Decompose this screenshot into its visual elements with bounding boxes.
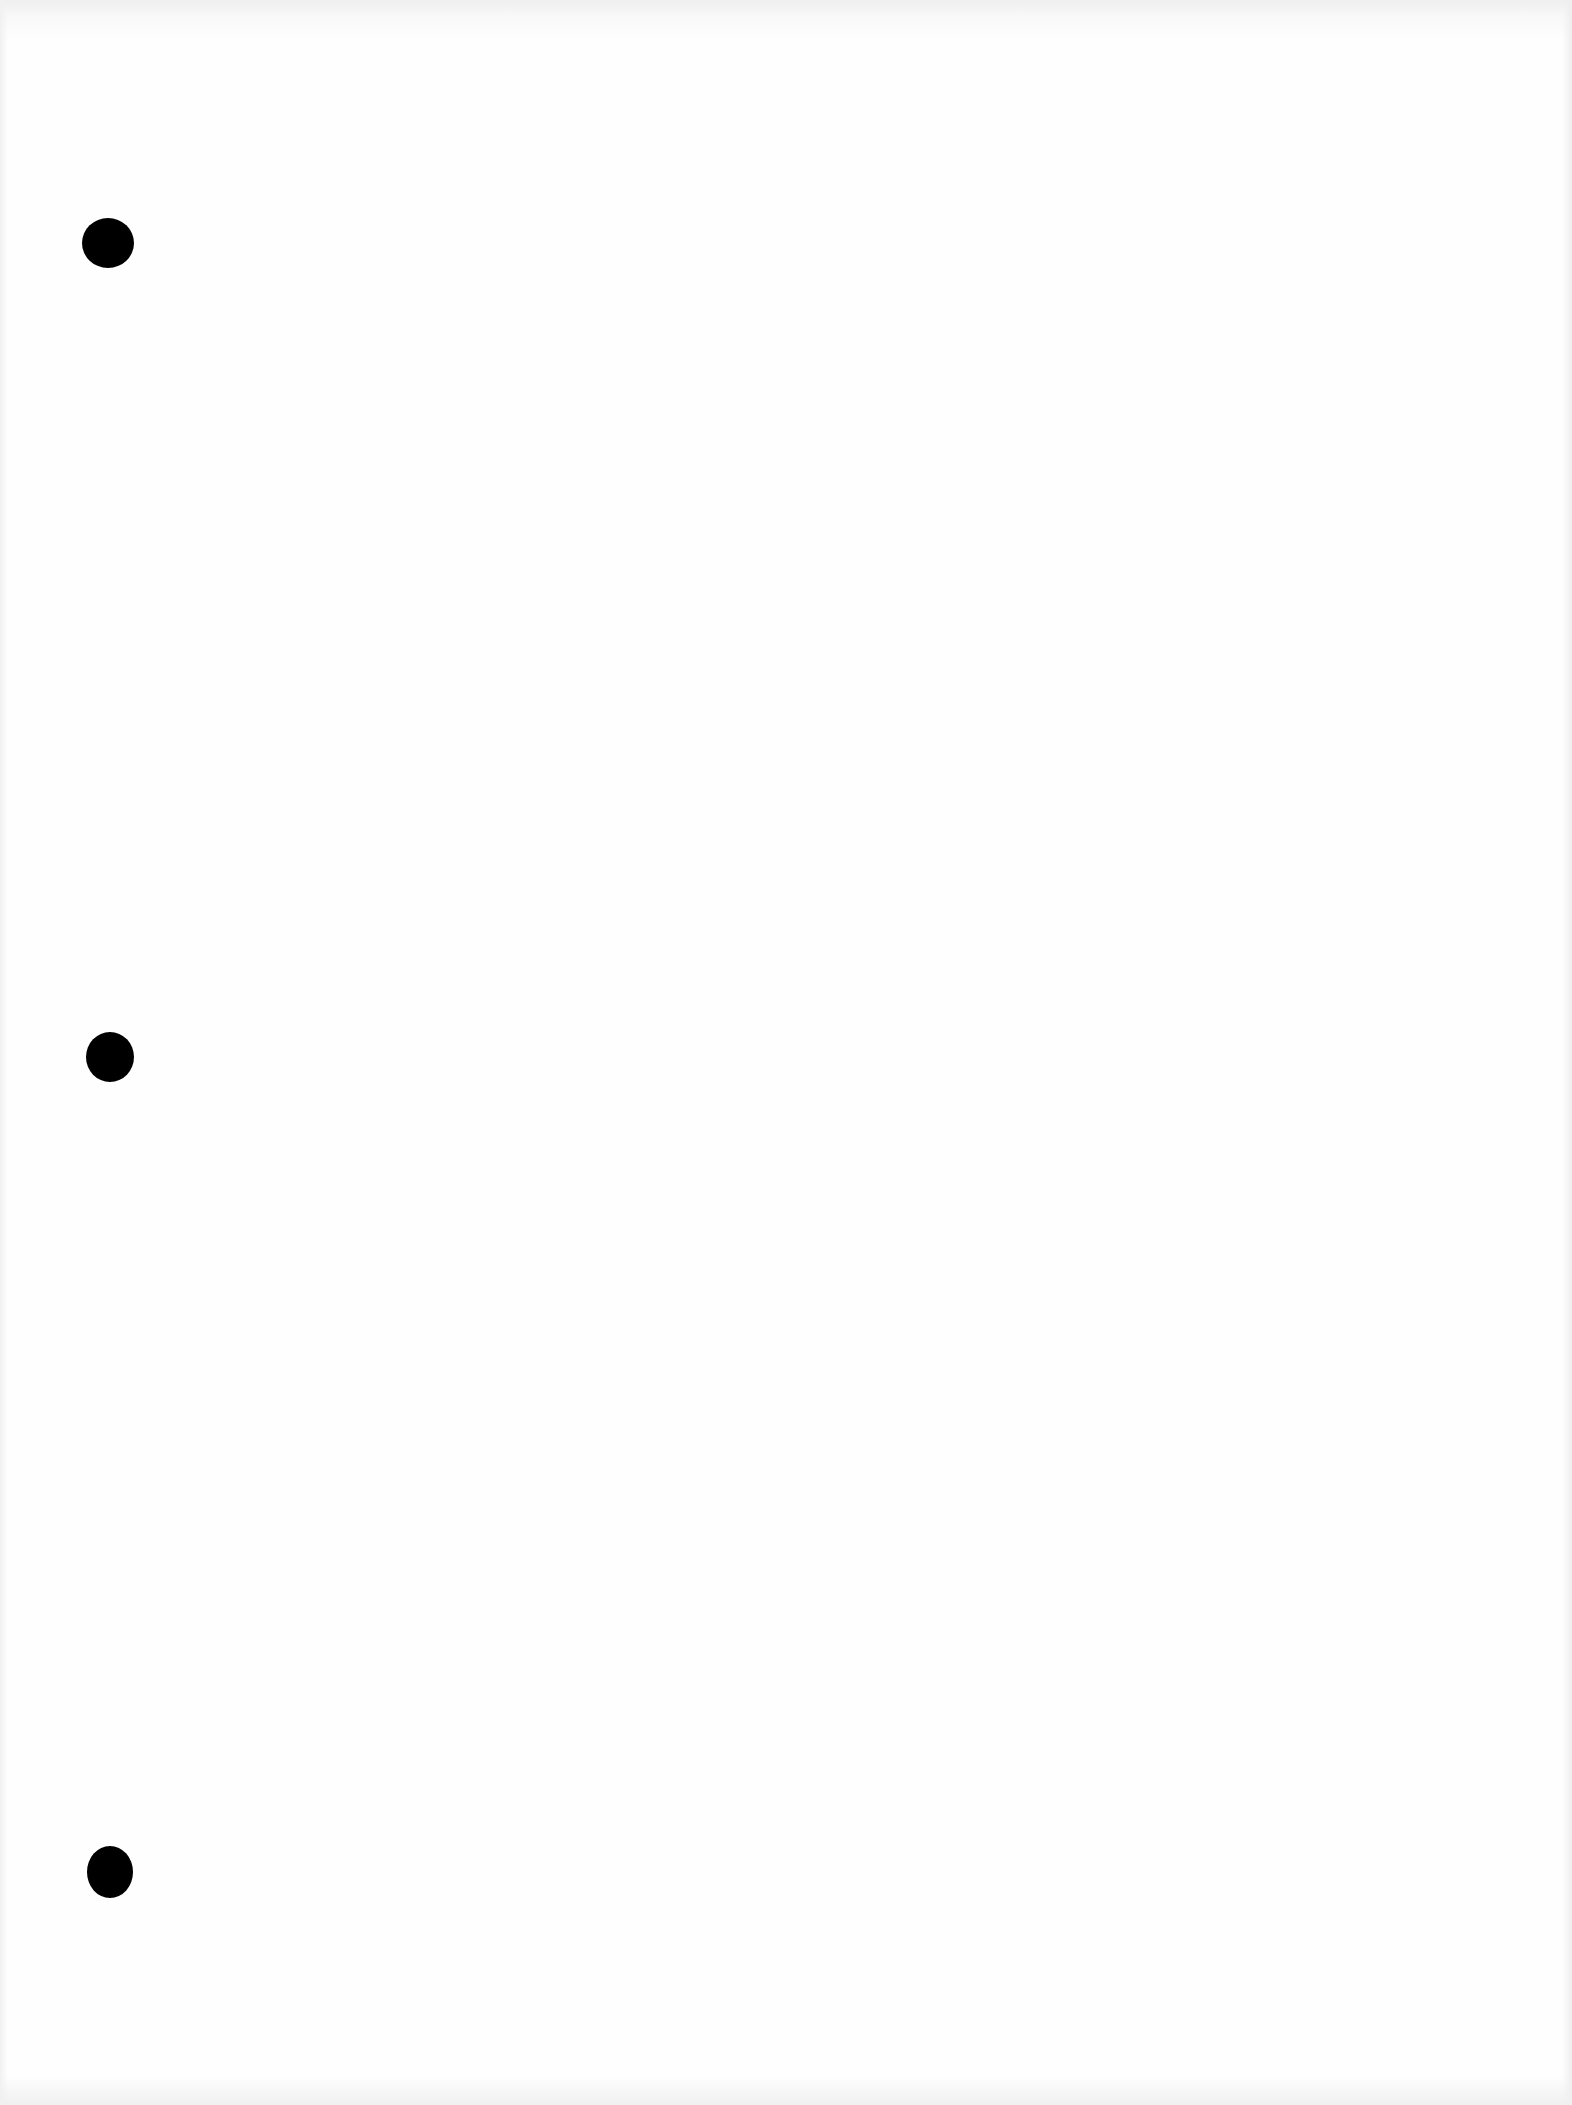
punch-hole-bottom [87, 1846, 133, 1898]
paper-right-edge [1562, 0, 1572, 2105]
blank-paper-sheet [0, 0, 1572, 2105]
punch-hole-top [82, 218, 134, 268]
paper-bottom-edge [0, 2075, 1572, 2105]
punch-hole-middle [86, 1032, 134, 1082]
paper-top-edge [0, 0, 1572, 40]
paper-left-edge [0, 0, 8, 2105]
